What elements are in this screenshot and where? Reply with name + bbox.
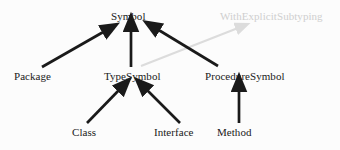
edge-proceduresymbol-to-symbol xyxy=(157,29,218,66)
edge-package-to-symbol xyxy=(42,31,105,67)
edge-class-to-typesymbol xyxy=(87,89,120,123)
node-typesymbol: TypeSymbol xyxy=(104,70,161,82)
node-withexplicitsubtyping: WithExplicitSubtyping xyxy=(220,10,323,22)
node-package: Package xyxy=(14,70,51,82)
edge-interface-to-typesymbol xyxy=(146,89,180,123)
node-method: Method xyxy=(217,126,252,138)
class-hierarchy-diagram: Symbol WithExplicitSubtyping Package Typ… xyxy=(0,0,340,150)
node-interface: Interface xyxy=(154,126,194,138)
node-proceduresymbol: ProcedureSymbol xyxy=(205,70,285,82)
edge-typesymbol-to-withexplicit xyxy=(141,28,238,66)
node-class: Class xyxy=(72,126,96,138)
node-symbol: Symbol xyxy=(111,10,146,22)
